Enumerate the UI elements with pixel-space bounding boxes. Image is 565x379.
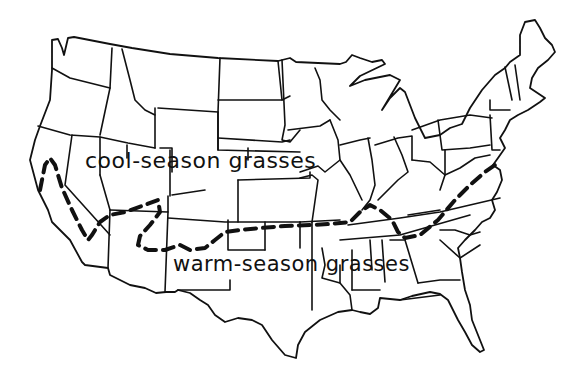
warm-season-label: warm-season grasses xyxy=(173,252,410,276)
cool-season-label: cool-season grasses xyxy=(85,148,316,173)
us-outline xyxy=(30,20,555,358)
us-map xyxy=(0,0,565,379)
